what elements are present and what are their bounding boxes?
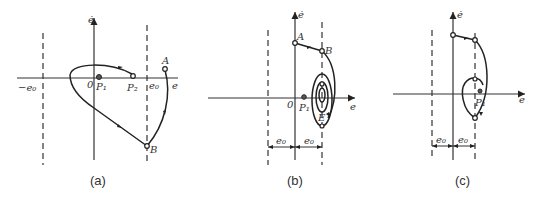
e-label: e (350, 101, 356, 112)
point-A (163, 67, 168, 72)
e-dot-label: ė (88, 14, 94, 25)
e0-right-label: e₀ (304, 135, 314, 146)
point-top (320, 82, 324, 86)
P1-label: P₁ (474, 97, 486, 108)
point-P1 (97, 75, 102, 80)
point-B (320, 49, 325, 54)
point-B (145, 144, 150, 149)
point-P2 (131, 74, 136, 79)
e-label: e (519, 94, 525, 105)
caption-a: (a) (90, 173, 106, 188)
point-P1 (302, 95, 307, 100)
point-boundary-top (473, 38, 478, 43)
P2-label: P₂ (126, 82, 138, 93)
P1-label: P₁ (95, 81, 107, 92)
P1-label: P₁ (298, 102, 310, 113)
point-bottom (320, 124, 324, 128)
panel-c: ė e P₁ e₀ e₀ (c) (393, 9, 525, 188)
point-loop-top (473, 77, 477, 81)
e0-left-label: e₀ (276, 135, 286, 146)
phase-plane-figure: ė e 0 −e₀ e₀ P₁ P₂ A B (a) ė e 0 A B P₁ … (0, 0, 538, 197)
origin-label: 0 (287, 99, 294, 110)
caption-c: (c) (455, 173, 470, 188)
B-label: B (149, 144, 157, 155)
panel-b: ė e 0 A B P₁ E e₀ e₀ (b) (208, 9, 356, 188)
e-dot-label: ė (457, 9, 463, 20)
e-dot-label: ė (298, 9, 304, 20)
direction-arrow (479, 112, 483, 116)
A-label: A (161, 55, 169, 66)
panel-a: ė e 0 −e₀ e₀ P₁ P₂ A B (a) (17, 14, 178, 188)
E-label: E (317, 112, 326, 123)
point-boundary-bottom (473, 116, 478, 121)
A-label: A (296, 31, 304, 42)
neg-e0-label: −e₀ (18, 82, 36, 93)
direction-arrow (326, 112, 330, 117)
e-label: e (172, 80, 178, 91)
point-start (451, 33, 456, 38)
origin-label: 0 (87, 79, 94, 90)
caption-b: (b) (287, 173, 303, 188)
e0-left-label: e₀ (436, 134, 446, 145)
e0-label: e₀ (149, 80, 159, 91)
B-label: B (324, 45, 332, 56)
point-P1 (478, 89, 482, 93)
e0-right-label: e₀ (458, 134, 468, 145)
